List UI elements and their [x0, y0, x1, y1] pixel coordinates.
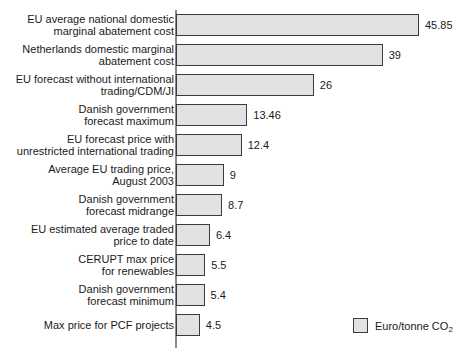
bar-row: Danish governmentforecast midrange8.7: [0, 190, 473, 220]
bar-row: Danish governmentforecast minimum5.4: [0, 280, 473, 310]
bar-category-label-line: trading/CDM/JI: [101, 85, 174, 97]
bar-category-label-line: August 2003: [112, 175, 174, 187]
bar-category-label-line: Danish government: [79, 283, 174, 295]
bar: [176, 104, 247, 126]
bar-with-value: 45.85: [176, 14, 419, 36]
bar-category-label-line: EU estimated average traded: [31, 223, 174, 235]
bar-value-label: 5.4: [205, 284, 226, 306]
bar-with-value: 12.4: [176, 134, 242, 156]
bar-category-label-line: Average EU trading price,: [48, 163, 174, 175]
bar-with-value: 5.4: [176, 284, 205, 306]
bar-category-label-line: unrestricted international trading: [17, 145, 174, 157]
bar: [176, 134, 242, 156]
bar-value-label: 12.4: [242, 134, 269, 156]
bar-category-label-line: Netherlands domestic marginal: [22, 43, 174, 55]
legend-label-subscript: 2: [448, 325, 452, 334]
bar: [176, 164, 224, 186]
bar-category-label-line: EU average national domestic: [27, 13, 174, 25]
bar-category-label: Danish governmentforecast minimum: [0, 280, 174, 310]
bar-category-label: CERUPT max pricefor renewables: [0, 250, 174, 280]
bar-category-label-line: forecast maximum: [84, 115, 174, 127]
bar-category-label: EU forecast price withunrestricted inter…: [0, 130, 174, 160]
bar-value-label: 5.5: [205, 254, 226, 276]
bar-category-label-line: Max price for PCF projects: [44, 319, 174, 331]
bar-category-label-line: marginal abatement cost: [54, 25, 174, 37]
bar-category-label-line: CERUPT max price: [78, 253, 174, 265]
bar-category-label-line: abatement cost: [99, 55, 174, 67]
bar-category-label: EU forecast without internationaltrading…: [0, 70, 174, 100]
bar-value-label: 4.5: [200, 314, 221, 336]
bar-category-label: EU average national domesticmarginal aba…: [0, 10, 174, 40]
bar-with-value: 5.5: [176, 254, 205, 276]
bar: [176, 74, 314, 96]
legend-swatch-icon: [353, 318, 368, 333]
bar-category-label-line: Danish government: [79, 103, 174, 115]
bar: [176, 224, 210, 246]
bar-row: Average EU trading price,August 20039: [0, 160, 473, 190]
bar-value-label: 26: [314, 74, 332, 96]
bar-with-value: 6.4: [176, 224, 210, 246]
bar-category-label-line: Danish government: [79, 193, 174, 205]
bar-row: EU estimated average tradedprice to date…: [0, 220, 473, 250]
bar-value-label: 13.46: [247, 104, 281, 126]
legend-label: Euro/tonne CO2: [375, 320, 453, 332]
bar-row: EU forecast without internationaltrading…: [0, 70, 473, 100]
bar-row: Danish governmentforecast maximum13.46: [0, 100, 473, 130]
bar-category-label-line: EU forecast without international: [16, 73, 174, 85]
bar-category-label: Danish governmentforecast midrange: [0, 190, 174, 220]
bar-value-label: 39: [383, 44, 401, 66]
bar-category-label: Average EU trading price,August 2003: [0, 160, 174, 190]
bar-category-label-line: EU forecast price with: [67, 133, 174, 145]
bar-with-value: 39: [176, 44, 383, 66]
bar-with-value: 9: [176, 164, 224, 186]
bar-category-label: Max price for PCF projects: [0, 310, 174, 340]
bar-category-label-line: for renewables: [102, 265, 174, 277]
bar-value-label: 9: [224, 164, 236, 186]
horizontal-bar-chart: EU average national domesticmarginal aba…: [0, 0, 473, 360]
legend-label-text: Euro/tonne CO: [375, 320, 448, 332]
bar-category-label-line: price to date: [113, 235, 174, 247]
bar-category-label: Danish governmentforecast maximum: [0, 100, 174, 130]
bar-row: EU average national domesticmarginal aba…: [0, 10, 473, 40]
bar-row: EU forecast price withunrestricted inter…: [0, 130, 473, 160]
bar-value-label: 8.7: [222, 194, 243, 216]
bar-row: CERUPT max pricefor renewables5.5: [0, 250, 473, 280]
bar: [176, 14, 419, 36]
bar: [176, 284, 205, 306]
chart-legend: Euro/tonne CO2: [353, 318, 453, 333]
bar: [176, 314, 200, 336]
bar-category-label-line: forecast minimum: [87, 295, 174, 307]
bar-value-label: 6.4: [210, 224, 231, 246]
bar-category-label: Netherlands domestic marginalabatement c…: [0, 40, 174, 70]
bar: [176, 254, 205, 276]
bar-with-value: 4.5: [176, 314, 200, 336]
bar: [176, 44, 383, 66]
bar-value-label: 45.85: [419, 14, 453, 36]
bar-with-value: 8.7: [176, 194, 222, 216]
bar: [176, 194, 222, 216]
bar-with-value: 13.46: [176, 104, 247, 126]
bar-category-label: EU estimated average tradedprice to date: [0, 220, 174, 250]
bar-row: Netherlands domestic marginalabatement c…: [0, 40, 473, 70]
bar-category-label-line: forecast midrange: [86, 205, 174, 217]
bar-with-value: 26: [176, 74, 314, 96]
